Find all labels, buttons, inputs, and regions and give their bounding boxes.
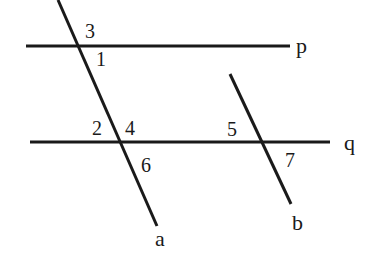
angle-4-label: 4 <box>125 117 135 139</box>
line-b <box>230 74 291 204</box>
label-a: a <box>155 226 165 251</box>
parallel-lines-diagram: p q a b 3 1 2 4 6 5 7 <box>0 0 376 261</box>
angle-1-label: 1 <box>96 48 106 70</box>
angle-3-label: 3 <box>85 20 95 42</box>
angle-2-label: 2 <box>92 117 102 139</box>
line-a <box>58 0 157 226</box>
label-b: b <box>292 210 303 235</box>
angle-7-label: 7 <box>285 149 295 171</box>
label-p: p <box>296 33 307 58</box>
angle-6-label: 6 <box>141 154 151 176</box>
angle-5-label: 5 <box>227 118 237 140</box>
label-q: q <box>344 130 355 155</box>
